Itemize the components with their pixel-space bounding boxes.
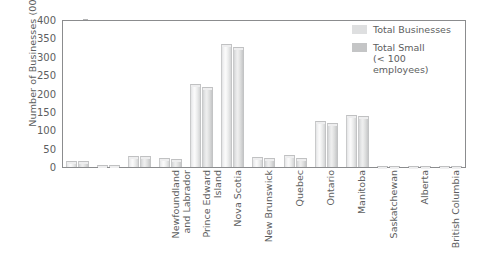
x-axis-label: Manitoba (357, 170, 368, 262)
bar (109, 165, 120, 167)
y-tick-label-50: 50 (43, 143, 56, 154)
bar (233, 47, 244, 167)
bar (264, 158, 275, 167)
bar-group (186, 20, 217, 167)
bar (284, 155, 295, 167)
bar (252, 157, 263, 167)
bar (171, 159, 182, 167)
legend-label-total-small: Total Small (< 100 employees) (373, 42, 464, 75)
bar (315, 121, 326, 167)
x-axis-label: Newfoundland and Labrador (171, 170, 192, 262)
bar (202, 87, 213, 167)
x-axis-label: Prince Edward Island (202, 170, 223, 262)
y-tick-label-150: 150 (37, 106, 56, 117)
bar (190, 84, 201, 167)
bar-group (62, 20, 93, 167)
bar (140, 156, 151, 167)
x-axis-label: Alberta (420, 170, 431, 262)
bar (327, 123, 338, 167)
bar-group (311, 20, 342, 167)
legend-item-total-small: Total Small (< 100 employees) (352, 42, 464, 75)
bar (128, 156, 139, 167)
chart-legend: Total Businesses Total Small (< 100 empl… (352, 24, 464, 82)
y-tick-label-300: 300 (37, 51, 56, 62)
bar (296, 158, 307, 167)
y-tick-label-250: 250 (37, 70, 56, 81)
y-tick-label-200: 200 (37, 88, 56, 99)
bar (221, 44, 232, 167)
x-axis-label: Quebec (295, 170, 306, 262)
x-axis-category-labels: Newfoundland and LabradorPrince Edward I… (62, 170, 466, 266)
total-businesses-swatch-icon (352, 25, 367, 34)
x-axis-label: Ontario (326, 170, 337, 262)
bar-group (217, 20, 248, 167)
bar (451, 166, 462, 168)
y-tick-label-350: 350 (37, 33, 56, 44)
y-axis-tick-labels: 400350300250200150100500 (26, 0, 56, 266)
bar-group (93, 20, 124, 167)
total-small-swatch-icon (352, 43, 367, 52)
bar (389, 166, 400, 168)
bar (420, 166, 431, 168)
y-tick-label-400: 400 (37, 15, 56, 26)
bar-chart: Number of Businesses (000s) 400350300250… (0, 0, 477, 266)
bar-group (124, 20, 155, 167)
x-axis-label: New Brunswick (264, 170, 275, 262)
bar (78, 161, 89, 167)
bar (159, 158, 170, 167)
legend-item-total-businesses: Total Businesses (352, 24, 464, 35)
bar (408, 166, 419, 168)
x-axis-label: Nova Scotia (233, 170, 244, 262)
bar (377, 166, 388, 168)
bar-group (155, 20, 186, 167)
bar (439, 166, 450, 168)
bar-group (248, 20, 279, 167)
bar (358, 116, 369, 167)
y-tick-label-100: 100 (37, 125, 56, 136)
y-tick-label-0: 0 (50, 162, 56, 173)
bar-group (280, 20, 311, 167)
x-axis-label: Saskatchewan (389, 170, 400, 262)
bar (346, 115, 357, 167)
bar (66, 161, 77, 167)
x-axis-label: British Columbia (451, 170, 462, 262)
bar (97, 165, 108, 167)
legend-label-total-businesses: Total Businesses (373, 24, 451, 35)
